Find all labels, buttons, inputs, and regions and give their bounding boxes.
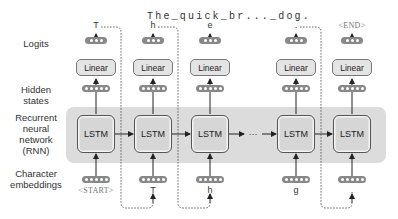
- lstm-cell: LSTM: [191, 115, 229, 153]
- logits-vector-icon: [142, 37, 164, 44]
- ellipsis: ···: [249, 129, 258, 139]
- hidden-state-vector-icon: [338, 85, 366, 92]
- output-char: T: [76, 20, 116, 30]
- logits-vector-icon: [85, 37, 107, 44]
- input-token: .: [332, 185, 372, 195]
- lstm-cell: LSTM: [77, 115, 115, 153]
- output-char: e: [190, 20, 230, 30]
- input-token: h: [190, 185, 230, 195]
- lstm-cell: LSTM: [134, 115, 172, 153]
- linear-layer: Linear: [133, 59, 173, 76]
- lstm-cell: LSTM: [277, 115, 315, 153]
- rnn-character-diagram: The_quick_br..._dog. Logits Hidden state…: [0, 0, 398, 219]
- logits-vector-icon: [199, 37, 221, 44]
- embedding-vector-icon: [196, 176, 224, 183]
- linear-layer: Linear: [332, 59, 372, 76]
- embedding-vector-icon: [82, 176, 110, 183]
- lstm-cell: LSTM: [333, 115, 371, 153]
- hidden-state-vector-icon: [82, 85, 110, 92]
- logits-vector-icon: [285, 37, 307, 44]
- input-token: g: [276, 185, 316, 195]
- hidden-state-vector-icon: [196, 85, 224, 92]
- embedding-vector-icon: [338, 176, 366, 183]
- hidden-state-vector-icon: [139, 85, 167, 92]
- output-char: h: [133, 20, 173, 30]
- logits-vector-icon: [341, 37, 363, 44]
- hidden-state-vector-icon: [282, 85, 310, 92]
- output-char: .: [276, 20, 316, 30]
- input-token: T: [133, 185, 173, 195]
- embedding-vector-icon: [282, 176, 310, 183]
- input-token: <START>: [76, 186, 116, 195]
- output-token: <END>: [332, 21, 372, 30]
- linear-layer: Linear: [276, 59, 316, 76]
- linear-layer: Linear: [76, 59, 116, 76]
- linear-layer: Linear: [190, 59, 230, 76]
- embedding-vector-icon: [139, 176, 167, 183]
